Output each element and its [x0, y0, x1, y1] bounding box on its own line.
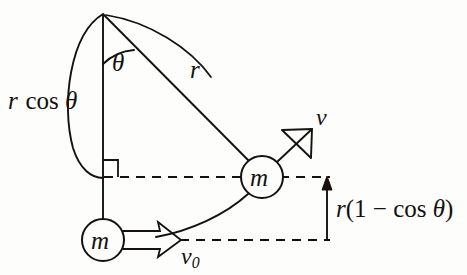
label-r-cos-theta-cos: cos: [25, 87, 58, 114]
label-height-drop-close: ): [445, 195, 453, 222]
label-r-cos-theta: r cos θ: [8, 88, 77, 113]
label-velocity-v: v: [316, 105, 327, 129]
label-height-drop-r: r: [336, 195, 346, 222]
diagram-canvas: [0, 0, 467, 275]
string-line: [103, 14, 249, 161]
label-mass-displaced: m: [250, 165, 268, 190]
label-height-drop-theta: θ: [433, 195, 445, 222]
height-measure-arrowhead: [322, 176, 332, 190]
label-radius-r: r: [190, 57, 200, 82]
label-theta: θ: [112, 50, 124, 75]
label-height-drop: r(1 − cos θ): [336, 196, 453, 221]
label-r-cos-theta-theta: θ: [65, 87, 77, 114]
label-height-drop-open: (1 −: [346, 195, 393, 222]
label-velocity-v0-symbol: v: [181, 243, 192, 269]
figure-root: r cos θ θ r v v0 r(1 − cos θ) m m: [0, 0, 467, 275]
label-height-drop-cos: cos: [393, 195, 426, 222]
label-mass-lowest: m: [91, 228, 109, 253]
label-r-cos-theta-r: r: [8, 87, 18, 114]
right-angle-marker: [103, 160, 118, 177]
label-velocity-v0: v0: [181, 244, 200, 271]
label-velocity-v0-subscript: 0: [192, 254, 200, 271]
velocity-v0-hollow-arrow: [123, 222, 181, 257]
velocity-v-shaft: [277, 130, 311, 162]
